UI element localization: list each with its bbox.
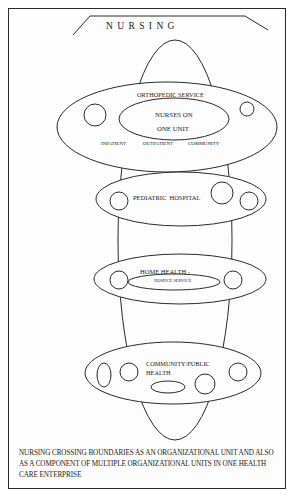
community-public-health-line2: HEALTH <box>146 369 171 376</box>
nursing-title: N U R S I N G <box>106 21 175 31</box>
setting-inpatient: INPATIENT <box>101 141 126 146</box>
pediatric-hospital-label: PEDIATRIC HOSPITAL <box>133 194 200 201</box>
home-health-label: HOME HEALTH - <box>140 268 190 275</box>
community-public-health-line1: COMMUNITY/PUBLIC <box>146 360 210 367</box>
diagram-caption: NURSING CROSSING BOUNDARIES AS AN ORGANI… <box>19 448 281 481</box>
nursing-diagram: N U R S I N G ORTHOPEDIC SERVICE NURSES … <box>0 0 295 499</box>
hospice-service-label: HOSPICE SERVICE <box>154 278 192 283</box>
nurses-on-one-unit-line2: ONE UNIT <box>157 125 190 132</box>
nurses-on-one-unit-line1: NURSES ON <box>155 111 193 118</box>
orthopedic-service-label: ORTHOPEDIC SERVICE <box>137 91 204 98</box>
setting-community: COMMUNITY <box>188 141 220 146</box>
setting-outpatient: OUTPATIENT <box>143 141 173 146</box>
